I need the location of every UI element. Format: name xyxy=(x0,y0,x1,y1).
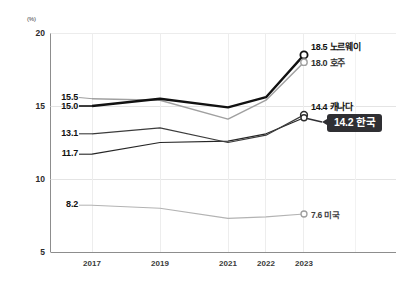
y-tick-20: 20 xyxy=(23,28,45,38)
y-axis-unit-label: (%) xyxy=(27,16,36,22)
line-chart: (%) 20 15 10 5 2017 2019 2021 2022 2023 … xyxy=(0,0,419,288)
start-label-korea: 11.7 xyxy=(44,148,78,158)
marker-usa-2023 xyxy=(301,211,307,217)
y-tick-15: 15 xyxy=(23,101,45,111)
series-line-usa xyxy=(92,205,304,218)
start-label-usa: 8.2 xyxy=(44,199,78,209)
start-label-canada: 13.1 xyxy=(44,128,78,138)
y-tick-5: 5 xyxy=(23,247,45,257)
y-tick-10: 10 xyxy=(23,174,45,184)
x-tick-2019: 2019 xyxy=(140,259,180,268)
marker-norway-2023 xyxy=(300,51,307,58)
marker-australia-2023 xyxy=(301,59,307,65)
end-label-canada: 14.4 캐나다 xyxy=(311,100,353,113)
leader-korea-badge xyxy=(307,119,322,123)
series-line-canada xyxy=(92,115,304,143)
end-label-australia: 18.0 호주 xyxy=(311,56,345,69)
x-tick-2017: 2017 xyxy=(72,259,112,268)
x-tick-2021: 2021 xyxy=(208,259,248,268)
x-tick-2023: 2023 xyxy=(284,259,324,268)
x-tick-2022: 2022 xyxy=(246,259,286,268)
marker-korea-2023 xyxy=(301,115,307,121)
leader-australia-start xyxy=(79,98,92,99)
highlight-badge-korea: 14.2 한국 xyxy=(327,114,382,132)
start-label-norway: 15.0 xyxy=(44,101,78,111)
end-label-norway: 18.5 노르웨이 xyxy=(311,40,360,53)
end-label-usa: 7.6 미국 xyxy=(311,208,339,220)
